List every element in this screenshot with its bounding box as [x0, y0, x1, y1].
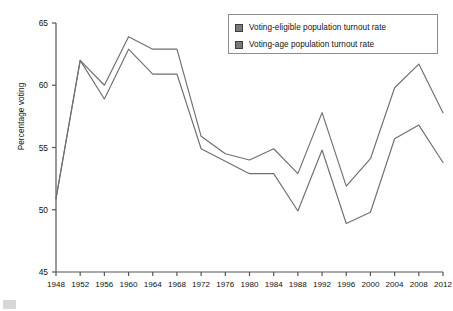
y-axis-title: Percentage voting	[17, 62, 26, 172]
legend-item-voting-age: Voting-age population turnout rate	[235, 36, 432, 53]
x-axis-tick-label: 1960	[120, 280, 139, 289]
x-axis-tick-label: 2012	[434, 280, 453, 289]
x-axis-tick-label: 1996	[337, 280, 356, 289]
series-line-voting-eligible	[56, 37, 443, 199]
y-axis-tick-label: 50	[39, 205, 49, 215]
y-axis-tick-label: 55	[39, 143, 49, 153]
y-axis-tick-label: 60	[39, 80, 49, 90]
page-corner-mark	[3, 300, 16, 309]
x-axis-tick-label: 1964	[144, 280, 163, 289]
series-line-voting-age	[56, 49, 443, 223]
chart-axes	[52, 23, 443, 276]
x-axis-tick-label: 1972	[192, 280, 211, 289]
legend-swatch-icon	[235, 41, 243, 49]
x-axis-tick-label: 1948	[47, 280, 66, 289]
x-axis-tick-label: 1988	[289, 280, 308, 289]
x-axis-tick-label: 1968	[168, 280, 187, 289]
chart-series-group	[56, 37, 443, 224]
x-axis-tick-label: 2000	[361, 280, 380, 289]
legend-swatch-icon	[235, 24, 243, 32]
y-axis-tick-label: 45	[39, 267, 49, 277]
x-axis-tick-label: 2004	[386, 280, 405, 289]
x-axis-tick-label: 2008	[410, 280, 429, 289]
chart-figure: 4550556065 19481952195619601964196819721…	[0, 0, 453, 311]
y-axis-tick-label: 65	[39, 18, 49, 28]
x-axis-tick-label: 1984	[265, 280, 284, 289]
x-axis-tick-label: 1952	[71, 280, 90, 289]
x-axis-tick-label: 1976	[216, 280, 235, 289]
chart-legend: Voting-eligible population turnout rate …	[228, 14, 438, 54]
y-axis-tick-labels: 4550556065	[39, 18, 49, 277]
legend-item-voting-eligible: Voting-eligible population turnout rate	[235, 19, 432, 36]
x-axis-tick-label: 1980	[240, 280, 259, 289]
x-axis-tick-labels: 1948195219561960196419681972197619801984…	[47, 280, 453, 289]
legend-item-label: Voting-age population turnout rate	[249, 40, 374, 49]
x-axis-tick-label: 1992	[313, 280, 332, 289]
legend-item-label: Voting-eligible population turnout rate	[249, 23, 386, 32]
x-axis-tick-label: 1956	[95, 280, 114, 289]
